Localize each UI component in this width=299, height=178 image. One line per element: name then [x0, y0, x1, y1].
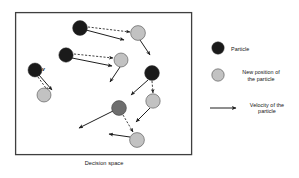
- new-position-marker: [131, 26, 146, 41]
- legend-marker-group: [212, 42, 224, 81]
- legend-new-position-icon: [212, 69, 224, 81]
- particle-marker: [59, 48, 73, 62]
- new-position-marker: [130, 133, 145, 148]
- new-position-marker: [114, 53, 128, 67]
- legend-particle-icon: [212, 42, 224, 54]
- particle-marker-mid: [112, 101, 127, 116]
- legend-label-particle: Particle: [231, 46, 295, 53]
- legend-label-new-position: New position of the particle: [231, 69, 291, 82]
- particle-marker: [73, 21, 88, 36]
- particle-marker: [145, 66, 160, 81]
- particle-marker: [28, 63, 42, 77]
- particle-swarm-diagram: Particle New position of the particle Ve…: [0, 0, 299, 178]
- decision-space-box: [16, 13, 192, 155]
- legend-label-velocity: Velocity of the particle: [239, 102, 295, 115]
- decision-space-caption: Decision space: [54, 160, 154, 167]
- diagram-canvas: [0, 0, 299, 178]
- velocity-v-annotation: v: [42, 66, 45, 73]
- new-position-marker: [146, 94, 160, 108]
- new-position-marker: [37, 88, 51, 102]
